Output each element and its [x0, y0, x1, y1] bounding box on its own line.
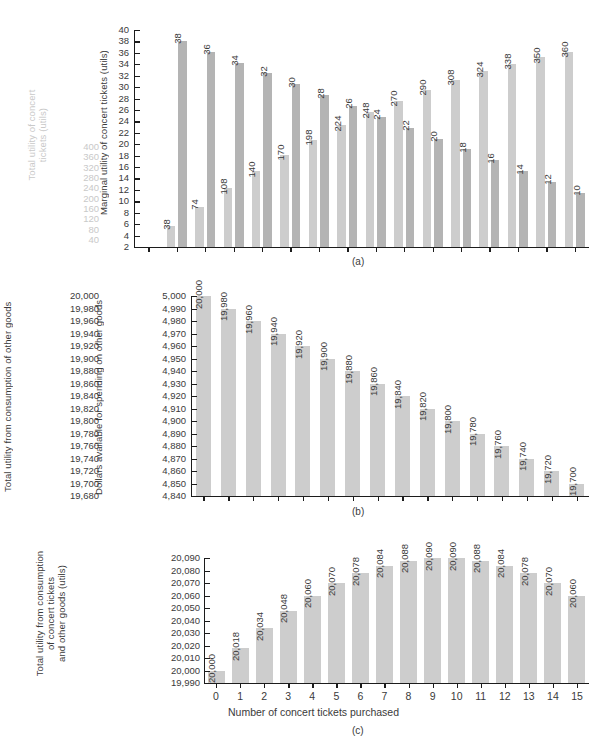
- panel-c-bar: 20,090: [448, 558, 465, 683]
- panel-b-bar: 19,700: [569, 484, 584, 497]
- panel-a-marginal-utility-bar: 26: [349, 106, 358, 247]
- tick-label: 4,840: [162, 491, 186, 501]
- bar-value-label: 224: [332, 116, 342, 132]
- bar-value-label: 170: [275, 145, 285, 161]
- panel-a-x-tick: [262, 247, 263, 252]
- tick-label: 4,870: [162, 454, 186, 464]
- panel-b-bar: 19,980: [221, 309, 236, 497]
- bar-value-label: 10: [571, 185, 581, 196]
- tick-label: 360: [83, 153, 99, 163]
- tick-label: 400: [83, 142, 99, 152]
- panel-a-caption: (a): [352, 256, 364, 267]
- panel-a-x-tick: [461, 247, 462, 252]
- bar-value-label: 20: [429, 131, 439, 142]
- tick-label: 20,070: [171, 578, 200, 588]
- bar-value-label: 19,880: [343, 354, 353, 383]
- bar-value-label: 24: [372, 110, 382, 121]
- tick-label: 20,050: [171, 603, 200, 613]
- panel-a-total-utility-bar: 360: [565, 52, 574, 247]
- panel-a-total-utility-bar: 140: [252, 171, 261, 247]
- panel-b-bar: 19,780: [470, 434, 485, 497]
- panel-c-bar: 20,084: [376, 566, 393, 684]
- panel-c-x-tick: [505, 683, 506, 688]
- panel-a-marginal-utility-bar: 20: [434, 139, 443, 248]
- panel-a-total-utility-bar: 350: [536, 57, 545, 247]
- panel-a-y-axis-spine: [134, 30, 135, 247]
- bar-value-label: 32: [258, 66, 268, 77]
- tick-label: 32: [118, 71, 129, 81]
- panel-a-marginal-utility-bar: 18: [463, 149, 472, 247]
- panel-c-x-tick: [457, 683, 458, 688]
- panel-b-bar: 19,720: [544, 471, 559, 496]
- axis-tickmark: [205, 608, 210, 609]
- bar-value-label: 20,090: [423, 541, 433, 570]
- panel-b-right-ticks: 5,0004,9904,9804,9704,9604,9504,9404,930…: [152, 296, 186, 496]
- tick-label: 20,080: [171, 566, 200, 576]
- panel-c-x-tick-label: 9: [430, 690, 436, 702]
- panel-b-bar: 19,860: [370, 384, 385, 497]
- bar-value-label: 38: [161, 219, 171, 230]
- axis-tickmark: [192, 459, 197, 460]
- panel-c-x-tick-label: 6: [357, 690, 363, 702]
- panel-b-x-tick: [378, 496, 379, 501]
- bar-value-label: 19,820: [418, 392, 428, 421]
- axis-tickmark: [192, 409, 197, 410]
- bar-value-label: 19,900: [318, 342, 328, 371]
- panel-a-marginal-utility-bar: 36: [207, 52, 216, 247]
- axis-tickmark: [192, 384, 197, 385]
- tick-label: 4,990: [162, 304, 186, 314]
- panel-c-bar: 20,060: [568, 596, 585, 684]
- axis-tickmark: [135, 87, 140, 88]
- panel-c-x-tick: [529, 683, 530, 688]
- tick-label: 160: [83, 204, 99, 214]
- panel-b-x-tick: [328, 496, 329, 501]
- panel-c-bar: 20,078: [352, 573, 369, 683]
- panel-a-total-utility-bar: 290: [423, 90, 432, 247]
- panel-c-x-tick: [240, 683, 241, 688]
- panel-c-x-tick-label: 8: [406, 690, 412, 702]
- panel-c-x-tick: [481, 683, 482, 688]
- panel-c-x-tick: [553, 683, 554, 688]
- panel-c-left-axis-label-line: and other goods (utils): [56, 529, 67, 699]
- bar-value-label: 19,860: [368, 367, 378, 396]
- axis-tickmark: [135, 201, 140, 202]
- tick-label: 12: [118, 185, 129, 195]
- panel-a-left-axis-label-line: tickets (utils): [37, 75, 48, 195]
- panel-b-x-tick: [402, 496, 403, 501]
- panel-c-bar: 20,090: [424, 558, 441, 683]
- tick-label: 30: [118, 82, 129, 92]
- bar-value-label: 324: [474, 61, 484, 77]
- panel-c-x-tick-label: 4: [309, 690, 315, 702]
- axis-tickmark: [135, 30, 140, 31]
- panel-a-marginal-utility-bar: 30: [292, 84, 301, 247]
- panel-c-bar: 20,088: [400, 561, 417, 684]
- tick-label: 40: [118, 25, 129, 35]
- bar-value-label: 18: [457, 142, 467, 153]
- panel-a: Total utility of concerttickets (utils) …: [0, 0, 616, 278]
- panel-c-x-tick: [409, 683, 410, 688]
- panel-b-x-tick: [203, 496, 204, 501]
- axis-tickmark: [135, 99, 140, 100]
- bar-value-label: 20,084: [375, 549, 385, 578]
- bar-value-label: 108: [218, 178, 228, 194]
- panel-a-x-tick: [347, 247, 348, 252]
- tick-label: 34: [118, 60, 129, 70]
- bar-value-label: 19,920: [293, 329, 303, 358]
- bar-value-label: 19,840: [393, 379, 403, 408]
- panel-b-bar: 19,920: [295, 346, 310, 496]
- bar-value-label: 20,084: [495, 549, 505, 578]
- bar-value-label: 360: [560, 42, 570, 58]
- tick-label: 20,020: [171, 641, 200, 651]
- bar-value-label: 26: [344, 99, 354, 110]
- panel-a-total-utility-bar: 38: [167, 226, 176, 247]
- panel-b-x-tick: [477, 496, 478, 501]
- bar-value-label: 19,740: [517, 442, 527, 471]
- bar-value-label: 12: [543, 175, 553, 186]
- tick-label: 14: [118, 174, 129, 184]
- tick-label: 200: [83, 194, 99, 204]
- bar-value-label: 20,018: [231, 631, 241, 660]
- panel-a-total-utility-bar: 170: [280, 155, 289, 247]
- panel-a-marginal-utility-bar: 12: [548, 182, 557, 247]
- tick-label: 28: [118, 94, 129, 104]
- panel-a-total-utility-bar: 198: [309, 140, 318, 247]
